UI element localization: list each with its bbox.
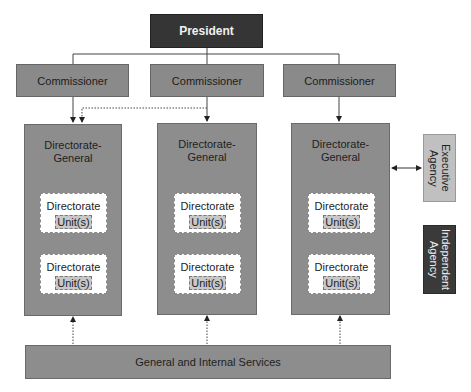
dg-title-line2: General	[25, 152, 121, 165]
directorate-box: Directorate Unit(s)	[174, 254, 241, 294]
executive-agency-label: Executive Agency	[428, 135, 452, 201]
directorate-box: Directorate Unit(s)	[174, 193, 241, 233]
president-label: President	[179, 24, 234, 38]
unit-box: Unit(s)	[189, 215, 226, 229]
directorate-general-box-3: Directorate- General Directorate Unit(s)…	[291, 123, 390, 315]
directorate-box: Directorate Unit(s)	[40, 193, 107, 233]
directorate-label: Directorate	[175, 261, 240, 273]
president-box: President	[150, 14, 263, 48]
dg-title-line2: General	[292, 151, 389, 164]
dg-title: Directorate- General	[292, 138, 389, 164]
directorate-box: Directorate Unit(s)	[40, 254, 107, 294]
commissioner-label: Commissioner	[172, 75, 242, 87]
agency-line1: Independent	[440, 229, 452, 290]
commissioner-label: Commissioner	[37, 75, 107, 87]
dg-title: Directorate- General	[25, 139, 121, 165]
independent-agency-box: Independent Agency	[423, 225, 456, 294]
dg-title-line1: Directorate-	[25, 139, 121, 152]
agency-line2: Agency	[428, 150, 440, 187]
directorate-box: Directorate Unit(s)	[308, 254, 375, 294]
commissioner-label: Commissioner	[304, 75, 374, 87]
directorate-label: Directorate	[309, 200, 374, 212]
commissioner-box-1: Commissioner	[16, 64, 129, 97]
directorate-label: Directorate	[41, 200, 106, 212]
unit-box: Unit(s)	[55, 276, 92, 290]
unit-box: Unit(s)	[55, 215, 92, 229]
directorate-label: Directorate	[41, 261, 106, 273]
directorate-label: Directorate	[309, 261, 374, 273]
independent-agency-label: Independent Agency	[428, 226, 452, 293]
directorate-general-box-2: Directorate- General Directorate Unit(s)…	[157, 123, 257, 315]
executive-agency-box: Executive Agency	[423, 134, 456, 202]
directorate-general-box-1: Directorate- General Directorate Unit(s)…	[24, 124, 122, 316]
directorate-label: Directorate	[175, 200, 240, 212]
directorate-box: Directorate Unit(s)	[308, 193, 375, 233]
agency-line1: Executive	[440, 144, 452, 192]
commissioner-box-3: Commissioner	[283, 64, 396, 97]
unit-box: Unit(s)	[323, 215, 360, 229]
dg-title-line1: Directorate-	[292, 138, 389, 151]
services-label: General and Internal Services	[135, 356, 281, 368]
dg-title: Directorate- General	[158, 138, 256, 164]
unit-box: Unit(s)	[323, 276, 360, 290]
unit-box: Unit(s)	[189, 276, 226, 290]
dg-title-line1: Directorate-	[158, 138, 256, 151]
agency-line2: Agency	[428, 241, 440, 278]
general-internal-services-box: General and Internal Services	[25, 345, 391, 379]
dg-title-line2: General	[158, 151, 256, 164]
commissioner-box-2: Commissioner	[150, 64, 264, 97]
